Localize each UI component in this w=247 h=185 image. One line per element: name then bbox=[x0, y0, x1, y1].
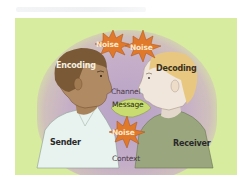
message-label: Message bbox=[112, 100, 143, 109]
noise-label-top-right: Noise bbox=[130, 43, 153, 52]
noise-label-bottom: Noise bbox=[112, 128, 135, 137]
channel-label: Channel bbox=[111, 87, 140, 96]
faded-caption-bleedthrough bbox=[16, 7, 146, 12]
context-label: Context bbox=[112, 154, 140, 163]
receiver-label: Receiver bbox=[173, 139, 210, 148]
sender-label: Sender bbox=[50, 138, 81, 147]
noise-label-top-left: Noise bbox=[96, 40, 119, 49]
decoding-label: Decoding bbox=[156, 64, 197, 73]
communication-model-panel: Encoding Decoding Channel Message Sender… bbox=[15, 18, 237, 175]
diagram-figures bbox=[15, 18, 237, 175]
sender-shirt bbox=[37, 106, 119, 168]
encoding-label: Encoding bbox=[56, 61, 96, 70]
